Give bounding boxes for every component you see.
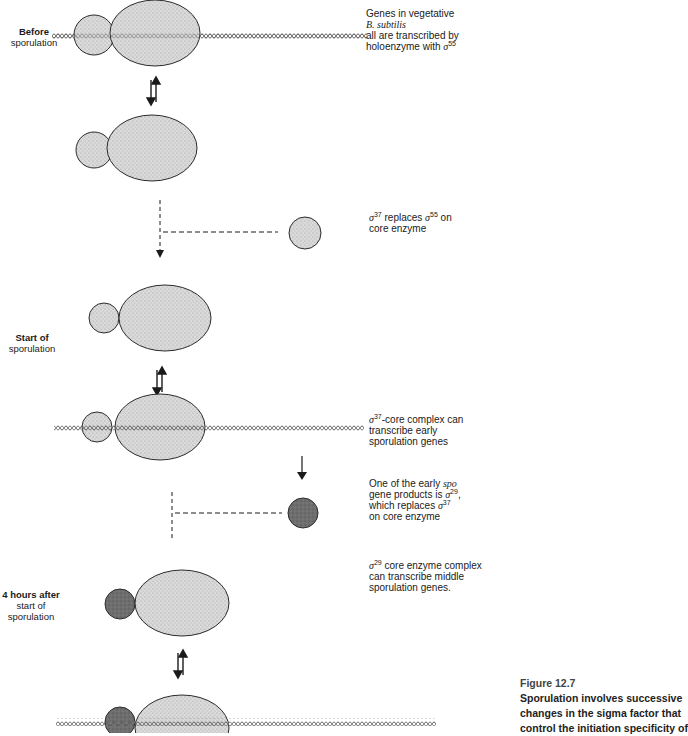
annotation-sigma37-replaces: σ37 replaces σ55 on core enzyme bbox=[369, 212, 452, 234]
holoenzyme-sigma37 bbox=[89, 285, 211, 351]
stage-label-before: Before sporulation bbox=[4, 26, 64, 48]
sigma37-subunit bbox=[289, 217, 321, 249]
dna-strand bbox=[56, 718, 436, 726]
sigma29-subunit bbox=[105, 589, 135, 619]
sigma37-subunit bbox=[89, 303, 119, 333]
sigma37-replacement-path bbox=[156, 200, 321, 258]
sigma29-subunit bbox=[288, 498, 318, 528]
annotation-sigma29-product: One of the early spo gene products is σ2… bbox=[369, 478, 461, 522]
core-enzyme bbox=[135, 570, 229, 636]
annotation-vegetative: Genes in vegetative B. subtilis all are … bbox=[366, 8, 459, 52]
caption-line: control the initiation specificity of bbox=[520, 721, 646, 736]
caption-line: changes in the sigma factor that bbox=[520, 706, 646, 721]
core-enzyme bbox=[135, 695, 229, 733]
annotation-sigma29-complex: σ29 core enzyme complex can transcribe m… bbox=[369, 560, 482, 593]
dna-strand bbox=[54, 423, 364, 431]
stage-label-4hours: 4 hours after start of sporulation bbox=[2, 589, 60, 622]
holoenzyme-sigma55-on-dna bbox=[52, 0, 367, 66]
annotation-sigma37-complex: σ37-core complex can transcribe early sp… bbox=[369, 414, 463, 447]
stage-label-start: Start of sporulation bbox=[2, 332, 62, 354]
holoenzyme-sigma29 bbox=[105, 570, 229, 636]
sigma29-replacement-path bbox=[172, 492, 318, 540]
caption-line: Sporulation involves successive bbox=[520, 691, 646, 706]
equilibrium-arrows-icon bbox=[153, 367, 166, 395]
holoenzyme-sigma37-on-dna bbox=[54, 394, 364, 460]
figure-number: Figure 12.7 bbox=[520, 676, 646, 691]
equilibrium-arrows-icon bbox=[147, 77, 160, 105]
free-holoenzyme-sigma55 bbox=[76, 115, 197, 181]
core-enzyme bbox=[107, 115, 197, 181]
core-enzyme bbox=[119, 285, 211, 351]
equilibrium-arrows-icon bbox=[174, 650, 187, 678]
figure-caption: Figure 12.7 Sporulation involves success… bbox=[520, 676, 646, 736]
holoenzyme-sigma29-on-dna bbox=[56, 695, 436, 733]
down-arrow-icon bbox=[297, 456, 307, 480]
